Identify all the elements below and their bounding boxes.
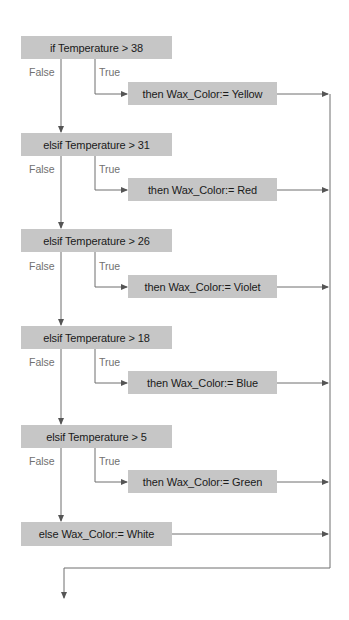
true-label: True bbox=[99, 66, 120, 78]
then-text: then Wax_Color:= Yellow bbox=[143, 88, 263, 100]
condition-box-5: elsif Temperature > 5 bbox=[21, 425, 172, 448]
true-label: True bbox=[99, 260, 120, 272]
then-box-5: then Wax_Color:= Green bbox=[128, 470, 277, 493]
condition-box-2: elsif Temperature > 31 bbox=[21, 133, 172, 156]
false-label: False bbox=[29, 163, 55, 175]
false-label: False bbox=[29, 260, 55, 272]
then-text: then Wax_Color:= Violet bbox=[144, 281, 260, 293]
then-box-1: then Wax_Color:= Yellow bbox=[128, 82, 277, 105]
condition-text: elsif Temperature > 5 bbox=[46, 431, 147, 443]
true-label: True bbox=[99, 356, 120, 368]
true-label: True bbox=[99, 455, 120, 467]
condition-text: if Temperature > 38 bbox=[50, 42, 143, 54]
condition-box-1: if Temperature > 38 bbox=[21, 36, 172, 59]
then-text: then Wax_Color:= Blue bbox=[147, 377, 258, 389]
then-text: then Wax_Color:= Green bbox=[143, 476, 262, 488]
false-label: False bbox=[29, 455, 55, 467]
then-text: then Wax_Color:= Red bbox=[148, 184, 257, 196]
then-box-3: then Wax_Color:= Violet bbox=[128, 275, 277, 298]
else-box: else Wax_Color:= White bbox=[21, 522, 172, 546]
true-label: True bbox=[99, 163, 120, 175]
false-label: False bbox=[29, 66, 55, 78]
flowchart: if Temperature > 38 False True then Wax_… bbox=[0, 0, 349, 620]
condition-box-3: elsif Temperature > 26 bbox=[21, 229, 172, 252]
condition-text: elsif Temperature > 18 bbox=[43, 332, 150, 344]
then-box-2: then Wax_Color:= Red bbox=[128, 178, 277, 201]
condition-text: elsif Temperature > 31 bbox=[43, 139, 150, 151]
condition-box-4: elsif Temperature > 18 bbox=[21, 326, 172, 349]
false-label: False bbox=[29, 356, 55, 368]
condition-text: elsif Temperature > 26 bbox=[43, 235, 150, 247]
then-box-4: then Wax_Color:= Blue bbox=[128, 371, 277, 394]
else-text: else Wax_Color:= White bbox=[39, 528, 155, 540]
